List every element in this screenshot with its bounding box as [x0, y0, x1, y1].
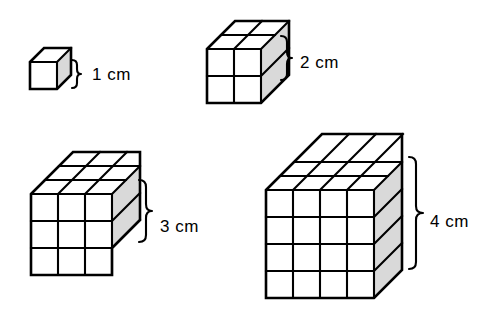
cube-1cm-shape [30, 48, 71, 89]
cube-3cm-label: 3 cm [160, 217, 199, 236]
cube-4cm-label: 4 cm [430, 212, 469, 231]
cube-3cm-front-face [31, 194, 112, 275]
cube-2cm-label: 2 cm [300, 53, 339, 72]
cube-figure-canvas: 1 cm 2 cm [0, 0, 493, 312]
cube-1cm-label: 1 cm [92, 65, 131, 84]
cube-1cm-front-face [30, 62, 57, 89]
cube-diagram: 1 cm 2 cm [0, 0, 493, 312]
